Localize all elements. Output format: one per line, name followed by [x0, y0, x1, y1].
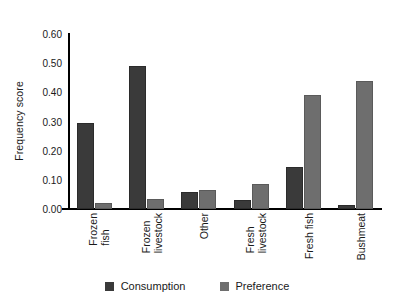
x-axis-label-text: Frozenfish: [88, 213, 111, 246]
bar-consumption-frozen-livestock: [129, 66, 146, 209]
x-axis-label-line: Other: [198, 213, 210, 239]
y-axis-tick-label: 0.60: [28, 29, 62, 40]
y-axis-tick-label: 0.00: [28, 204, 62, 215]
y-axis-tick-mark: [64, 208, 68, 209]
bar-group: [77, 34, 112, 209]
y-axis-title-text: Frequency score: [13, 81, 25, 161]
bar-group: [338, 34, 373, 209]
x-axis-label-text: Bushmeat: [356, 213, 368, 260]
legend-label: Consumption: [121, 280, 186, 292]
bar-chart-figure: Frequency score 0.000.100.200.300.400.50…: [0, 0, 394, 303]
x-axis-label-text: Frozenlivestock: [141, 213, 164, 253]
x-axis-label-line: fish: [100, 213, 112, 246]
x-axis-label-text: Freshlivestock: [245, 213, 268, 253]
chart-legend: ConsumptionPreference: [0, 280, 394, 292]
y-axis-tick-label: 0.40: [28, 87, 62, 98]
x-axis-label-line: Fresh fish: [303, 213, 315, 259]
x-axis-label-text: Fresh fish: [304, 213, 316, 259]
x-axis-label-text: Other: [199, 213, 211, 239]
plot-area: 0.000.100.200.300.400.500.60: [68, 34, 382, 209]
bar-consumption-fresh-fish: [286, 167, 303, 209]
x-axis-label-line: Fresh: [244, 226, 256, 253]
y-axis-title: Frequency score: [8, 56, 30, 186]
x-axis-label-line: Frozen: [140, 221, 152, 254]
x-axis-label-line: livestock: [152, 213, 164, 253]
y-axis-tick-label: 0.20: [28, 145, 62, 156]
x-axis-label-line: livestock: [257, 213, 269, 253]
legend-item-preference[interactable]: Preference: [220, 280, 290, 292]
bar-group: [286, 34, 321, 209]
x-axis-label-bushmeat: Bushmeat: [324, 213, 388, 229]
bar-group: [234, 34, 269, 209]
bar-preference-bushmeat: [356, 81, 373, 209]
bar-preference-fresh-fish: [304, 95, 321, 209]
legend-swatch-icon: [105, 282, 114, 291]
bar-consumption-bushmeat: [338, 205, 355, 209]
legend-item-consumption[interactable]: Consumption: [105, 280, 186, 292]
bar-preference-frozen-livestock: [147, 199, 164, 210]
bar-consumption-frozen-fish: [77, 123, 94, 209]
bar-preference-fresh-livestock: [252, 184, 269, 209]
bar-group: [129, 34, 164, 209]
legend-swatch-icon: [220, 282, 229, 291]
y-axis-tick-label: 0.30: [28, 116, 62, 127]
bar-consumption-fresh-livestock: [234, 200, 251, 209]
x-axis-label-line: Bushmeat: [355, 213, 367, 260]
y-axis-tick-label: 0.50: [28, 58, 62, 69]
y-axis-tick-label: 0.10: [28, 174, 62, 185]
bar-preference-frozen-fish: [95, 203, 112, 209]
bar-group: [181, 34, 216, 209]
x-axis-label-line: Frozen: [87, 213, 99, 246]
bar-consumption-other: [181, 192, 198, 210]
bar-preference-other: [199, 190, 216, 209]
legend-label: Preference: [236, 280, 290, 292]
